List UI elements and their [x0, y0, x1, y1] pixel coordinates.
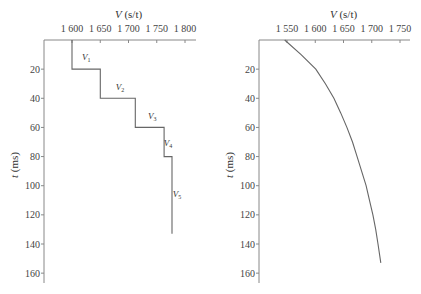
x-axis-label: V (s/t) — [330, 8, 358, 21]
velocity-curve — [72, 40, 172, 234]
y-tick-label: 40 — [30, 93, 40, 104]
y-tick-label: 120 — [240, 209, 255, 220]
x-tick-label: 1 750 — [146, 23, 169, 34]
layer-velocity-label: V4 — [164, 138, 173, 149]
y-tick-label: 100 — [25, 180, 40, 191]
y-tick-label: 80 — [30, 151, 40, 162]
layer-velocity-label: V1 — [82, 52, 91, 63]
x-tick-label: 1 700 — [117, 23, 140, 34]
x-tick-label: 1 750 — [389, 23, 412, 34]
velocity-curve — [285, 40, 381, 263]
x-tick-label: 1 600 — [61, 23, 84, 34]
y-tick-label: 140 — [25, 239, 40, 250]
x-tick-label: 1 650 — [332, 23, 355, 34]
y-tick-label: 100 — [240, 180, 255, 191]
chart-figure: 1 6001 6501 7001 7501 800V (s/t)20406080… — [0, 0, 421, 294]
x-tick-label: 1 600 — [304, 23, 327, 34]
y-tick-label: 20 — [245, 64, 255, 75]
y-tick-label: 60 — [30, 122, 40, 133]
y-tick-label: 160 — [240, 268, 255, 279]
layer-velocity-label: V5 — [173, 189, 182, 200]
right-velocity-chart: 1 5501 6001 6501 7001 750V (s/t)20406080… — [223, 8, 411, 283]
y-tick-label: 80 — [245, 151, 255, 162]
y-tick-label: 40 — [245, 93, 255, 104]
layer-velocity-label: V2 — [116, 82, 125, 93]
x-axis-label: V (s/t) — [115, 8, 143, 21]
x-tick-label: 1 650 — [89, 23, 112, 34]
y-tick-label: 160 — [25, 268, 40, 279]
y-tick-label: 20 — [30, 64, 40, 75]
left-velocity-chart: 1 6001 6501 7001 7501 800V (s/t)20406080… — [8, 8, 196, 283]
y-tick-label: 60 — [245, 122, 255, 133]
layer-velocity-label: V3 — [148, 111, 157, 122]
y-tick-label: 120 — [25, 209, 40, 220]
y-tick-label: 140 — [240, 239, 255, 250]
x-tick-label: 1 700 — [361, 23, 384, 34]
x-tick-label: 1 550 — [276, 23, 299, 34]
y-axis-label: t (ms) — [8, 152, 21, 178]
x-tick-label: 1 800 — [174, 23, 197, 34]
y-axis-label: t (ms) — [223, 152, 236, 178]
